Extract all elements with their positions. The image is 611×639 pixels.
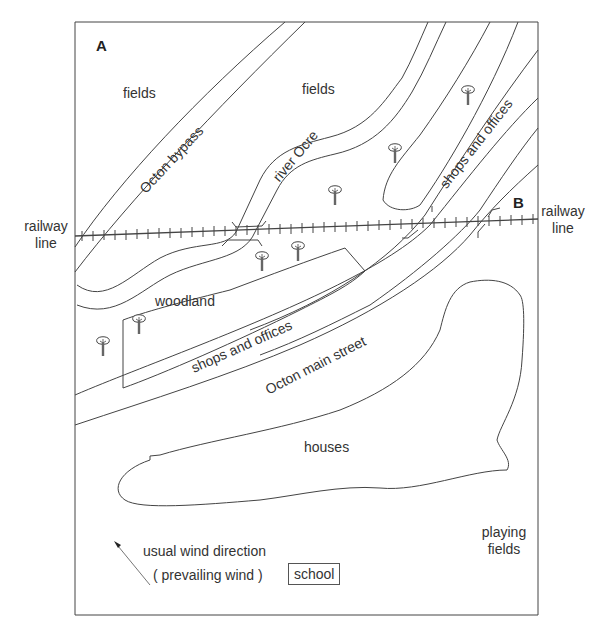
label-playing-fields-line2: fields (476, 541, 532, 558)
railway-label-left-line2: line (23, 235, 69, 252)
river-edge-left (77, 22, 428, 292)
tree-icon (292, 242, 305, 261)
railway-label-right-line1: railway (540, 203, 586, 220)
corner-label-a: A (96, 38, 107, 53)
label-playing-fields: playing fields (476, 524, 532, 558)
tree-icon (256, 252, 269, 271)
shops-upper-outline (383, 22, 538, 210)
label-fields-left: fields (123, 86, 156, 100)
label-woodland: woodland (155, 294, 215, 308)
label-fields-right: fields (302, 82, 335, 96)
tree-icon (133, 315, 146, 334)
railway-label-right-line2: line (540, 220, 586, 237)
main-street-lower-edge (75, 165, 538, 425)
corner-label-b: B (513, 195, 524, 210)
school-box: school (288, 563, 340, 585)
railway-label-right: railway line (540, 203, 586, 237)
railway-label-left: railway line (23, 218, 69, 252)
bridge-river-top (232, 221, 266, 227)
tree-icon (329, 186, 342, 205)
bridge-river-bottom (222, 240, 262, 246)
label-playing-fields-line1: playing (476, 524, 532, 541)
railway-label-left-line1: railway (23, 218, 69, 235)
wind-label-line1: usual wind direction (143, 544, 266, 558)
houses-outline (118, 280, 524, 506)
bypass-edge-upper (75, 22, 285, 247)
tree-icon (462, 86, 475, 105)
wind-arrow-head (114, 541, 121, 548)
tree-icon (97, 337, 110, 356)
railway-line (75, 219, 538, 236)
wind-label-line2: ( prevailing wind ) (153, 568, 263, 582)
label-houses: houses (304, 440, 349, 454)
